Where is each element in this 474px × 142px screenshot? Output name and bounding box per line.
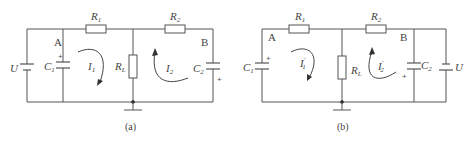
polarity-plus-c1: + <box>266 54 271 63</box>
label-u: U <box>455 61 464 73</box>
caption-a: (a) <box>125 121 136 133</box>
node-label-b: B <box>400 31 407 43</box>
polarity-plus-c2: + <box>402 72 407 81</box>
polarity-plus-c2: + <box>217 75 222 84</box>
label-c1: C1 <box>44 60 55 74</box>
label-c2: C2 <box>193 62 204 76</box>
circuit-figure: R1 R2 RL C1 C2 U A B I1 I2 + + (a) <box>0 0 474 142</box>
resistor-r2 <box>366 25 386 33</box>
arrowhead-icon <box>307 74 312 81</box>
node-label-a: A <box>54 36 62 48</box>
label-c1: C1 <box>243 61 254 75</box>
polarity-plus-c1: + <box>58 52 63 61</box>
arrowhead-icon <box>152 48 158 56</box>
circuit-a: R1 R2 RL C1 C2 U A B I1 I2 + + (a) <box>10 10 222 133</box>
node-label-b: B <box>201 36 208 48</box>
label-i1-prime: I′1 <box>299 56 306 71</box>
arrowhead-icon <box>369 47 375 55</box>
resistor-r2 <box>165 25 185 33</box>
node-label-a: A <box>268 31 276 43</box>
label-r2: R2 <box>370 10 382 24</box>
arrowhead-icon <box>97 79 103 86</box>
resistor-rl <box>338 56 346 79</box>
circuit-b: R1 R2 RL C1 C2 U A B I′1 I′2 + + (b) <box>243 10 464 133</box>
label-r1: R1 <box>90 10 101 24</box>
label-r1: R1 <box>294 10 305 24</box>
label-c2: C2 <box>421 59 432 73</box>
label-u: U <box>10 62 19 74</box>
resistor-rl <box>129 55 137 78</box>
label-i2: I2 <box>165 62 174 76</box>
label-r2: R2 <box>169 10 181 24</box>
current-loop-arrow-i2 <box>154 52 188 82</box>
resistor-r1 <box>86 25 106 33</box>
resistor-r1 <box>289 25 309 33</box>
label-rl: RL <box>350 64 362 78</box>
label-i2-prime: I′2 <box>377 59 384 74</box>
label-rl: RL <box>114 60 126 74</box>
label-i1: I1 <box>87 60 95 74</box>
caption-b: (b) <box>337 121 349 133</box>
